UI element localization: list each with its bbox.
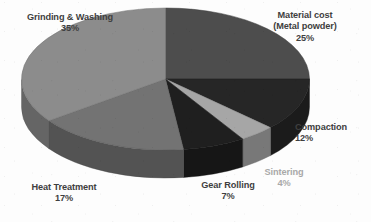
slice-label-name: Grinding & Washing (4, 12, 136, 23)
slice-label-name-line2: (Metal powder) (243, 21, 367, 32)
slice-label-name: Sintering (253, 167, 315, 178)
slice-label-name: Compaction (295, 122, 369, 133)
slice-label-material-cost: Material cost (Metal powder) 25% (243, 10, 367, 44)
slice-label-value: 35% (4, 23, 136, 34)
slice-label-value: 7% (187, 191, 269, 202)
slice-label-compaction: Compaction 12% (295, 122, 369, 145)
slice-label-name: Gear Rolling (187, 180, 269, 191)
pie-chart: Grinding & Washing 35% Material cost (Me… (0, 0, 371, 222)
slice-label-gear-rolling: Gear Rolling 7% (187, 180, 269, 203)
slice-label-value: 25% (243, 33, 367, 44)
slice-label-value: 12% (295, 133, 369, 144)
slice-label-name: Heat Treatment (14, 182, 114, 193)
slice-label-grinding-washing: Grinding & Washing 35% (4, 12, 136, 35)
slice-label-name: Material cost (243, 10, 367, 21)
slice-label-value: 17% (14, 193, 114, 204)
slice-label-heat-treatment: Heat Treatment 17% (14, 182, 114, 205)
